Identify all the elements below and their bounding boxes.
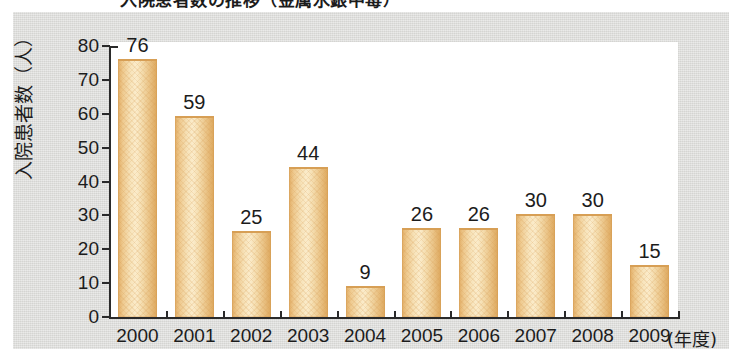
bar-top-edge (346, 286, 385, 288)
y-axis-tick-labels: 01020304050607080 (37, 12, 99, 349)
bar-value-label: 15 (620, 240, 680, 263)
y-axis-tick-label: 60 (53, 103, 99, 125)
bar (630, 266, 669, 317)
y-axis-line (109, 46, 111, 319)
y-axis-tick (102, 181, 110, 183)
bar-value-label: 30 (506, 189, 566, 212)
bar-value-label: 26 (392, 203, 452, 226)
bar (289, 168, 328, 317)
y-axis-tick (102, 282, 110, 284)
x-axis-tick (223, 311, 225, 319)
y-axis-title: 入院患者数（人） (9, 28, 36, 180)
bar-top-edge (175, 116, 214, 118)
y-axis-tick (102, 147, 110, 149)
x-axis-unit-label: (年度) (667, 325, 717, 351)
y-axis-tick-label: 40 (53, 171, 99, 193)
bar-top-edge (289, 167, 328, 169)
y-axis-tick-label: 50 (53, 137, 99, 159)
bar-top-edge (630, 265, 669, 267)
bar-top-edge (573, 214, 612, 216)
x-axis-tick (394, 311, 396, 319)
x-axis-tick (280, 311, 282, 319)
y-axis-tick-label: 80 (53, 35, 99, 57)
bar-top-edge (232, 231, 271, 233)
y-axis-tick-label: 0 (53, 306, 99, 328)
bar-value-label: 44 (278, 142, 338, 165)
y-axis-tick (102, 113, 110, 115)
chart-panel: 01020304050607080 入院患者数（人） 7620005920012… (13, 12, 729, 349)
bar (459, 229, 498, 317)
y-axis-tick-label: 70 (53, 69, 99, 91)
bar (516, 215, 555, 317)
y-axis-tick (102, 316, 110, 318)
bar-value-label: 30 (563, 189, 623, 212)
page-title: 入院患者数の推移（金属水銀中毒） (120, 0, 400, 11)
bar (346, 287, 385, 317)
x-axis-tick (337, 311, 339, 319)
bar (402, 229, 441, 317)
y-axis-tick (102, 248, 110, 250)
x-axis-tick (450, 311, 452, 319)
bar (118, 60, 157, 317)
bar (573, 215, 612, 317)
y-axis-tick-label: 20 (53, 238, 99, 260)
bar-value-label: 76 (107, 34, 167, 57)
bar-top-edge (516, 214, 555, 216)
bar (232, 232, 271, 317)
x-axis-tick (507, 311, 509, 319)
bar-value-label: 25 (221, 206, 281, 229)
y-axis-tick (102, 79, 110, 81)
bar-top-edge (402, 228, 441, 230)
x-axis-tick (621, 311, 623, 319)
bar-value-label: 9 (335, 261, 395, 284)
x-axis-tick (564, 311, 566, 319)
bar (175, 117, 214, 317)
y-axis-tick (102, 214, 110, 216)
bar-top-edge (118, 59, 157, 61)
y-axis-tick-label: 10 (53, 272, 99, 294)
x-axis-tick (678, 311, 680, 319)
y-axis-tick-label: 30 (53, 204, 99, 226)
bar-value-label: 26 (449, 203, 509, 226)
bar-top-edge (459, 228, 498, 230)
chart-title-strip: 入院患者数の推移（金属水銀中毒） (0, 0, 743, 12)
x-axis-tick (166, 311, 168, 319)
bar-value-label: 59 (164, 91, 224, 114)
